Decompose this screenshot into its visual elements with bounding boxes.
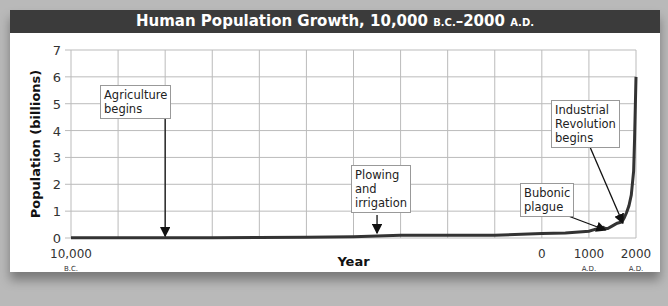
y-tick-label: 4 [53, 124, 61, 139]
x-axis-label: Year [336, 254, 370, 269]
x-tick-era: A.D. [582, 265, 597, 272]
y-tick-label: 2 [53, 177, 61, 192]
annotation-label: IndustrialRevolutionbegins [551, 100, 620, 148]
x-tick-era: B.C. [64, 265, 78, 272]
x-tick-label: 0 [538, 247, 546, 261]
annotation-label: Bubonicplague [520, 183, 574, 217]
x-tick-label: 10,000 [50, 247, 92, 261]
x-tick-label: 2000 [621, 247, 652, 261]
y-tick-label: 7 [53, 43, 61, 58]
annotation-label: Plowingandirrigation [351, 165, 411, 213]
y-tick-label: 1 [53, 204, 61, 219]
y-tick-label: 3 [53, 150, 61, 165]
y-tick-label: 0 [53, 231, 61, 246]
y-axis-label: Population (billions) [28, 70, 43, 219]
x-tick-era: A.D. [629, 265, 644, 272]
y-tick-label: 5 [53, 97, 61, 112]
x-tick-label: 1000 [574, 247, 605, 261]
chart-page: Human Population Growth, 10,000 B.C.–200… [10, 10, 660, 272]
annotation-label: Agriculturebegins [100, 85, 171, 119]
y-tick-label: 6 [53, 70, 61, 85]
